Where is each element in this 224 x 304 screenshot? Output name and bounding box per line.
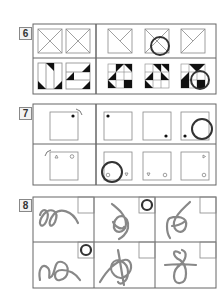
p8-corner-boxes bbox=[78, 197, 216, 258]
p7-dots bbox=[71, 114, 186, 137]
p6-answer-circle-top bbox=[151, 37, 169, 55]
p6-bottom-fills bbox=[108, 64, 205, 88]
p7-answer-circle-bottom bbox=[102, 162, 122, 182]
p6-bottom-examples bbox=[38, 63, 90, 89]
p6-top-examples bbox=[38, 29, 90, 53]
p7-squares bbox=[50, 112, 209, 180]
p6-top-options bbox=[108, 29, 205, 53]
p8-ropes bbox=[39, 202, 196, 285]
p8-answer-circle-2 bbox=[81, 245, 91, 255]
p6-bottom-options bbox=[108, 64, 205, 88]
puzzle-figures bbox=[0, 0, 224, 304]
panel-7 bbox=[33, 104, 216, 185]
p8-answer-circle-1 bbox=[142, 200, 152, 210]
